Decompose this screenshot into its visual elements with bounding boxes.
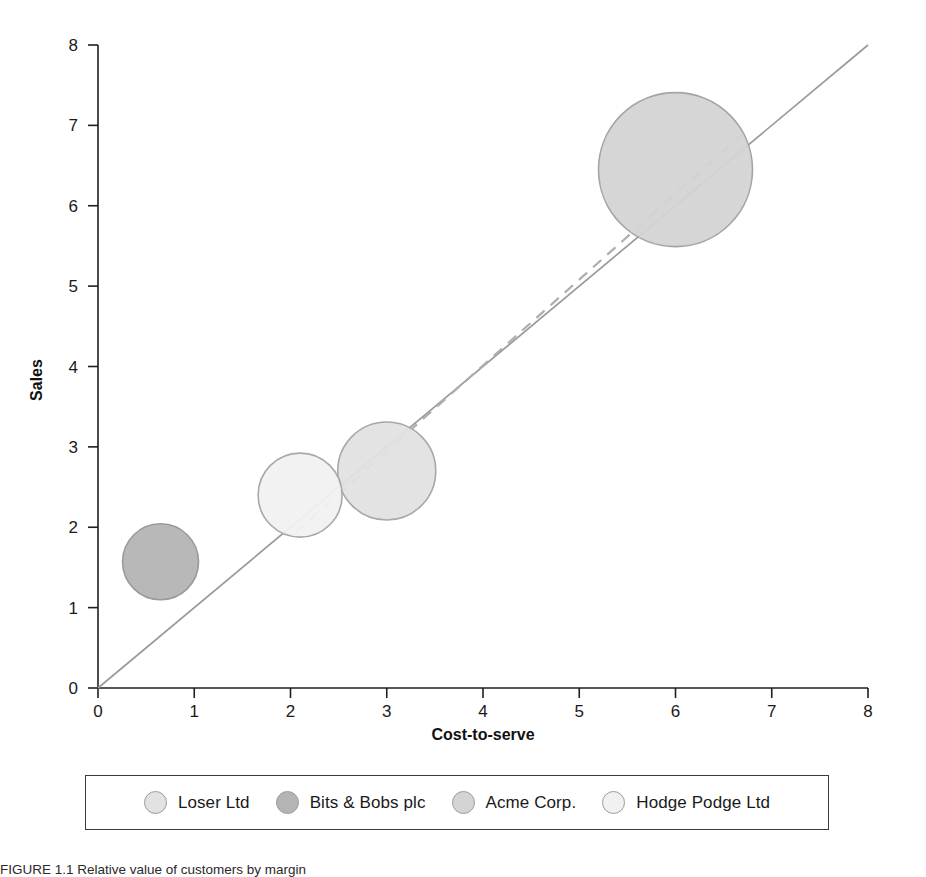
bubble-marker <box>258 453 342 537</box>
y-tick-label: 5 <box>69 277 78 296</box>
y-tick-label: 0 <box>69 679 78 698</box>
legend-swatch-circle-icon <box>452 791 475 814</box>
legend-item[interactable]: Loser Ltd <box>144 791 250 814</box>
bubble-marker <box>338 422 436 520</box>
y-tick-label: 3 <box>69 438 78 457</box>
x-tick-label: 8 <box>863 702 872 721</box>
legend-item[interactable]: Hodge Podge Ltd <box>602 791 770 814</box>
y-tick-label: 1 <box>69 599 78 618</box>
legend-swatch-circle-icon <box>276 791 299 814</box>
x-tick-label: 5 <box>575 702 584 721</box>
legend-swatch-circle-icon <box>602 791 625 814</box>
x-tick-label: 1 <box>190 702 199 721</box>
y-tick-label: 6 <box>69 197 78 216</box>
x-tick-label: 4 <box>478 702 487 721</box>
legend-item-label: Bits & Bobs plc <box>310 793 426 813</box>
legend-item[interactable]: Bits & Bobs plc <box>276 791 426 814</box>
legend-item-label: Loser Ltd <box>178 793 250 813</box>
x-tick-label: 7 <box>767 702 776 721</box>
y-axis-ticks: 012345678 <box>69 36 98 698</box>
chart-lines <box>98 45 868 688</box>
y-tick-label: 2 <box>69 518 78 537</box>
y-tick-label: 4 <box>69 358 78 377</box>
bubble-marker <box>123 524 199 600</box>
chart-legend: Loser LtdBits & Bobs plcAcme Corp.Hodge … <box>85 775 829 830</box>
y-tick-label: 7 <box>69 116 78 135</box>
x-tick-label: 2 <box>286 702 295 721</box>
y-axis-title: Sales <box>28 359 45 401</box>
x-tick-label: 3 <box>382 702 391 721</box>
bubble-markers <box>123 93 753 600</box>
legend-swatch-circle-icon <box>144 791 167 814</box>
x-axis-ticks: 012345678 <box>93 688 872 721</box>
bubble-marker <box>599 93 753 247</box>
x-tick-label: 6 <box>671 702 680 721</box>
legend-item-label: Acme Corp. <box>486 793 577 813</box>
legend-item[interactable]: Acme Corp. <box>452 791 577 814</box>
y-tick-label: 8 <box>69 36 78 55</box>
x-axis-title: Cost-to-serve <box>431 726 534 743</box>
figure-caption: FIGURE 1.1 Relative value of customers b… <box>0 862 926 877</box>
x-tick-label: 0 <box>93 702 102 721</box>
legend-item-label: Hodge Podge Ltd <box>636 793 770 813</box>
